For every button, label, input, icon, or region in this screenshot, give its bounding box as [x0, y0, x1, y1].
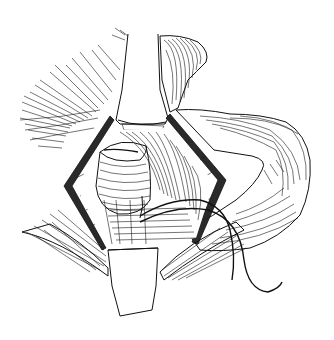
right-upper-muscle-lobe: [160, 36, 207, 112]
lower-retractor-blade: [108, 248, 158, 316]
surgical-illustration: [0, 0, 334, 340]
illustration-svg: [0, 0, 334, 340]
left-fan-muscle-fibers: [20, 28, 128, 148]
